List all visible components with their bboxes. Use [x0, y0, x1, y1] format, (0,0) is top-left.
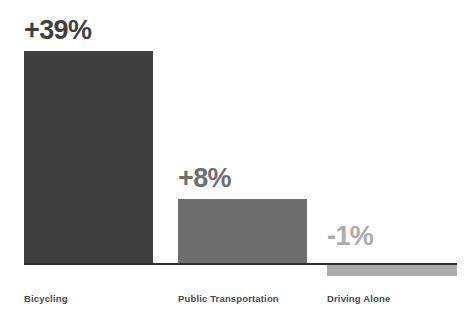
bar-bicycling[interactable] [24, 51, 153, 263]
zero-baseline [24, 263, 457, 265]
value-label-public-transportation: +8% [178, 165, 231, 192]
bar-driving-alone[interactable] [327, 265, 457, 276]
category-label-bicycling: Bicycling [24, 294, 68, 304]
category-label-public-transportation: Public Transportation [178, 294, 279, 304]
value-label-bicycling: +39% [24, 17, 91, 44]
category-label-driving-alone: Driving Alone [327, 294, 390, 304]
value-label-driving-alone: -1% [327, 223, 373, 250]
plot-area: +39% Bicycling +8% Public Transportation… [0, 0, 473, 321]
bar-chart: +39% Bicycling +8% Public Transportation… [0, 0, 473, 321]
bar-public-transportation[interactable] [178, 199, 307, 263]
